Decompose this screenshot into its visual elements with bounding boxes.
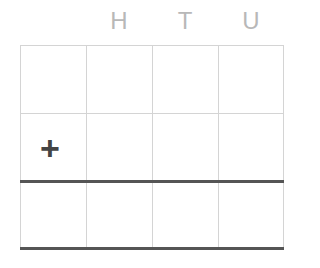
column-header-units: U [218,8,284,34]
answer-cell-c1[interactable] [87,183,152,247]
column-header-hundreds: H [86,8,152,34]
cell-r1-c1[interactable] [87,46,152,113]
cell-r1-c2[interactable] [153,46,218,113]
plus-operator: + [40,131,60,165]
bottom-line [20,247,284,250]
cell-r2-c3[interactable] [219,114,283,180]
column-header-tens: T [152,8,218,34]
grid-line-v4 [283,45,284,248]
cell-r2-c2[interactable] [153,114,218,180]
cell-r1-c0[interactable] [21,46,86,113]
answer-cell-c2[interactable] [153,183,218,247]
cell-r2-c1[interactable] [87,114,152,180]
answer-cell-c3[interactable] [219,183,283,247]
cell-r1-c3[interactable] [219,46,283,113]
answer-cell-c0[interactable] [21,183,86,247]
